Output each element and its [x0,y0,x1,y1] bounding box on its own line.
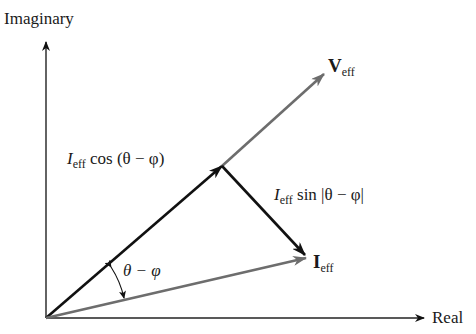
imaginary-axis-label: Imaginary [4,10,74,27]
cos-expression: cos (θ − φ) [86,149,165,168]
current-label: Ieff [313,252,334,274]
voltage-label: Veff [328,56,355,78]
sin-component-vector [222,166,305,255]
angle-label: θ − φ [123,262,161,279]
cos-component-vector [46,166,222,318]
sin-subscript: eff [280,193,293,207]
real-axis-label: Real [432,309,463,326]
cos-subscript: eff [73,157,86,171]
voltage-symbol: V [328,55,342,76]
voltage-vector [222,74,324,166]
sin-expression: sin |θ − φ| [293,185,364,204]
current-subscript: eff [320,261,333,275]
sin-component-label: Ieff sin |θ − φ| [274,186,364,206]
cos-component-label: Ieff cos (θ − φ) [67,150,164,170]
current-vector [46,258,306,318]
voltage-subscript: eff [342,65,355,79]
